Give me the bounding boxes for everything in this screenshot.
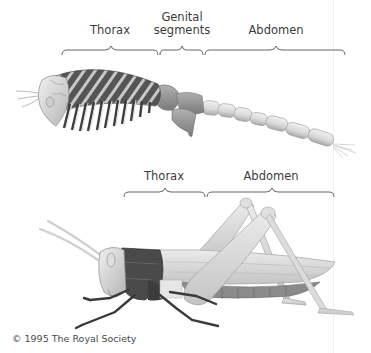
bracket-genital-top xyxy=(160,46,203,55)
antennae-bottom xyxy=(40,221,102,260)
top-brackets xyxy=(62,46,345,55)
cerci xyxy=(333,144,356,158)
grasshopper-figure xyxy=(40,198,354,328)
label-abdomen-bottom: Abdomen xyxy=(243,170,298,182)
thorax-body-top xyxy=(55,70,161,112)
eye-top xyxy=(46,97,54,107)
diagram-illustration xyxy=(0,0,371,353)
label-genital-line2: segments xyxy=(154,24,210,37)
bottom-brackets xyxy=(124,188,334,197)
antennae-top xyxy=(16,91,40,107)
copyright-notice: © 1995 The Royal Society xyxy=(12,333,136,344)
genital-segments xyxy=(156,85,204,137)
label-thorax-bottom: Thorax xyxy=(144,170,184,182)
eye-bottom xyxy=(107,253,115,267)
bracket-abdomen-bottom xyxy=(207,188,334,197)
label-thorax-top: Thorax xyxy=(90,24,130,36)
ancestral-arthropod-figure xyxy=(16,70,356,158)
bracket-thorax-top xyxy=(62,46,158,55)
bracket-thorax-bottom xyxy=(124,188,205,197)
abdomen-tail xyxy=(201,100,335,148)
label-abdomen-top: Abdomen xyxy=(248,24,303,36)
bracket-abdomen-top xyxy=(205,46,345,55)
label-genital-segments: Genital segments xyxy=(154,11,210,37)
